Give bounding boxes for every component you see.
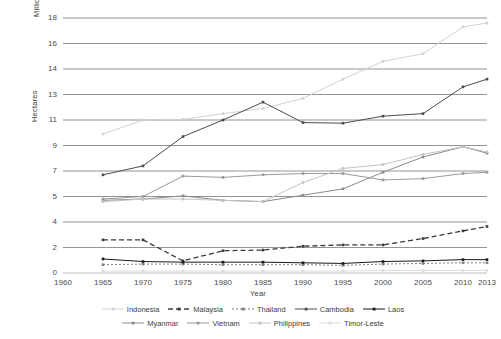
data-point-marker — [302, 181, 305, 184]
data-point-marker — [262, 107, 265, 110]
data-point-marker — [102, 258, 105, 261]
data-point-marker — [222, 176, 225, 179]
data-point-marker — [462, 230, 465, 233]
data-point-marker — [486, 151, 489, 154]
data-point-marker — [302, 172, 305, 175]
legend-item[interactable]: Vietnam — [187, 319, 239, 328]
data-point-marker — [462, 86, 465, 89]
legend-item[interactable]: Timor-Leste — [319, 319, 384, 328]
legend-label: Vietnam — [212, 319, 239, 328]
data-point-marker — [382, 179, 385, 182]
data-point-marker — [422, 177, 425, 180]
data-point-marker — [102, 270, 105, 273]
data-point-marker — [382, 269, 385, 272]
legend-row: IndonesiaMalaysiaThailandCambodiaLaos — [88, 302, 418, 316]
legend-swatch-icon — [232, 305, 254, 313]
series-line — [103, 79, 487, 175]
data-point-marker — [142, 195, 145, 198]
data-point-marker — [462, 262, 465, 265]
data-point-marker — [422, 112, 425, 115]
data-point-marker — [182, 175, 185, 178]
data-point-marker — [222, 263, 225, 266]
gridlines — [63, 18, 487, 273]
legend-item[interactable]: Philippines — [249, 319, 310, 328]
data-point-marker — [422, 262, 425, 265]
data-point-marker — [182, 198, 185, 201]
data-point-marker — [486, 258, 489, 261]
series-layer — [102, 22, 489, 273]
series-malaysia — [102, 225, 489, 262]
data-point-marker — [302, 194, 305, 197]
data-point-marker — [102, 239, 105, 242]
legend-item[interactable]: Cambodia — [295, 305, 354, 314]
legend-label: Philippines — [274, 319, 310, 328]
legend-swatch-icon — [319, 319, 341, 327]
series-line — [103, 172, 487, 199]
data-point-marker — [222, 119, 225, 122]
legend-item[interactable]: Myanmar — [122, 319, 178, 328]
series-line — [103, 270, 487, 271]
legend-item[interactable]: Laos — [363, 305, 404, 314]
data-point-marker — [102, 263, 105, 266]
legend-swatch-icon — [122, 319, 144, 327]
data-point-marker — [302, 270, 305, 273]
data-point-marker — [262, 270, 265, 273]
data-point-marker — [342, 122, 345, 125]
legend-swatch-icon — [168, 305, 190, 313]
data-point-marker — [142, 263, 145, 266]
legend-swatch-icon — [249, 319, 271, 327]
data-point-marker — [142, 239, 145, 242]
data-point-marker — [342, 262, 345, 265]
data-point-marker — [342, 244, 345, 247]
series-vietnam — [102, 171, 489, 200]
series-line — [103, 226, 487, 260]
data-point-marker — [342, 172, 345, 175]
data-point-marker — [222, 249, 225, 252]
data-point-marker — [262, 263, 265, 266]
legend-label: Cambodia — [320, 305, 354, 314]
data-point-marker — [422, 52, 425, 55]
data-point-marker — [262, 249, 265, 252]
data-point-marker — [142, 165, 145, 168]
legend-label: Laos — [388, 305, 404, 314]
legend-item[interactable]: Thailand — [232, 305, 286, 314]
data-point-marker — [422, 269, 425, 272]
data-point-marker — [262, 200, 265, 203]
legend-swatch-icon — [295, 305, 317, 313]
data-point-marker — [222, 112, 225, 115]
data-point-marker — [142, 260, 145, 263]
data-point-marker — [342, 167, 345, 170]
legend-swatch-icon — [102, 305, 124, 313]
data-point-marker — [222, 261, 225, 264]
data-point-marker — [486, 225, 489, 228]
data-point-marker — [342, 188, 345, 191]
data-point-marker — [222, 270, 225, 273]
legend-row: MyanmarVietnamPhilippinesTimor-Leste — [88, 316, 418, 330]
data-point-marker — [342, 78, 345, 81]
data-point-marker — [142, 119, 145, 122]
data-point-marker — [342, 270, 345, 273]
data-point-marker — [182, 118, 185, 121]
data-point-marker — [462, 26, 465, 29]
legend-label: Thailand — [257, 305, 286, 314]
legend-label: Myanmar — [147, 319, 178, 328]
legend: IndonesiaMalaysiaThailandCambodiaLaos My… — [88, 302, 418, 330]
data-point-marker — [102, 200, 105, 203]
data-point-marker — [302, 262, 305, 265]
data-point-marker — [422, 237, 425, 240]
data-point-marker — [486, 171, 489, 174]
data-point-marker — [382, 60, 385, 63]
data-point-marker — [382, 263, 385, 266]
data-point-marker — [102, 198, 105, 201]
data-point-marker — [142, 198, 145, 201]
series-timor-leste — [102, 269, 489, 272]
legend-item[interactable]: Malaysia — [168, 305, 223, 314]
data-point-marker — [302, 97, 305, 100]
legend-item[interactable]: Indonesia — [102, 305, 160, 314]
series-line — [103, 263, 487, 266]
data-point-marker — [182, 270, 185, 273]
data-point-marker — [382, 163, 385, 166]
legend-swatch-icon — [363, 305, 385, 313]
